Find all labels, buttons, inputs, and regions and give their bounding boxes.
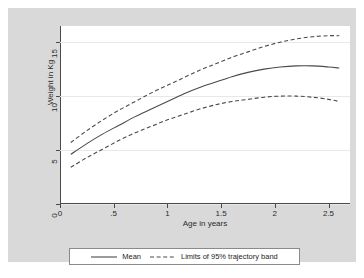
x-axis-tick-label: 2.5 — [314, 209, 344, 218]
legend-item-band: Limits of 95% trajectory band — [150, 252, 278, 261]
legend-key-solid — [91, 254, 117, 260]
x-axis-tick-label: .5 — [99, 209, 129, 218]
series-lines — [60, 26, 350, 204]
legend-key-dashed — [150, 254, 176, 260]
x-axis-title: Age in years — [60, 219, 350, 228]
chart-legend: Mean Limits of 95% trajectory band — [69, 248, 300, 265]
gridline — [60, 204, 350, 205]
plot-area — [60, 26, 350, 204]
y-axis-title: Weight in Kg — [46, 60, 55, 105]
chart-screenshot: 051015 0.511.522.5 Weight in Kg Age in y… — [0, 0, 364, 278]
legend-label-band: Limits of 95% trajectory band — [181, 252, 278, 261]
x-axis-tick — [114, 204, 115, 208]
x-axis-tick-label: 0 — [45, 209, 75, 218]
x-axis-tick — [329, 204, 330, 208]
legend-label-mean: Mean — [122, 252, 141, 261]
x-axis-tick-label: 1 — [152, 209, 182, 218]
graph-region: 051015 0.511.522.5 Weight in Kg Age in y… — [8, 8, 356, 262]
series-line — [71, 96, 340, 167]
x-axis-tick-label: 2 — [260, 209, 290, 218]
x-axis-tick — [167, 204, 168, 208]
y-axis-tick-label: 5 — [50, 150, 59, 174]
x-axis-tick — [221, 204, 222, 208]
x-axis-tick-label: 1.5 — [206, 209, 236, 218]
x-axis-tick — [275, 204, 276, 208]
series-line — [71, 66, 340, 155]
series-line — [71, 36, 340, 143]
legend-item-mean: Mean — [91, 252, 141, 261]
x-axis-tick — [60, 204, 61, 208]
